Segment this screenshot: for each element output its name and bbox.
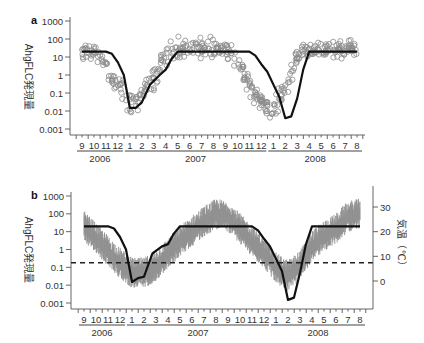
month-label: 1 — [129, 314, 134, 325]
month-label: 6 — [187, 140, 192, 151]
month-label: 8 — [211, 140, 216, 151]
month-label: 10 — [89, 140, 100, 151]
figure: a AhgFLC発現量 10001001010.10.010.001 91011… — [0, 0, 424, 343]
y-tick-label: 1000 — [43, 191, 64, 202]
month-label: 3 — [151, 140, 156, 151]
panel-a-plot-area — [80, 34, 360, 120]
month-label: 3 — [295, 140, 300, 151]
y-tick-label: 1000 — [42, 16, 63, 27]
y-tick-label: 1 — [59, 244, 64, 255]
month-label: 2 — [283, 140, 288, 151]
month-label: 5 — [177, 314, 182, 325]
month-label: 1 — [273, 314, 278, 325]
observed-scatter — [80, 34, 360, 120]
data-point — [198, 35, 203, 40]
month-label: 2 — [141, 314, 146, 325]
month-label: 11 — [244, 140, 254, 151]
data-point — [176, 34, 181, 39]
data-point — [198, 56, 203, 61]
month-label: 11 — [101, 140, 111, 151]
temperature-band — [84, 199, 360, 291]
y-tick-label: 0.1 — [50, 88, 63, 99]
month-label: 7 — [345, 314, 350, 325]
month-label: 3 — [153, 314, 158, 325]
month-label: 5 — [175, 140, 180, 151]
month-label: 10 — [235, 314, 246, 325]
right-tick-label: 30 — [380, 202, 391, 213]
month-label: 9 — [79, 140, 84, 151]
y-tick-label: 0.001 — [39, 124, 63, 135]
temperature-trace — [84, 199, 360, 291]
month-label: 1 — [127, 140, 132, 151]
month-label: 4 — [309, 314, 314, 325]
y-tick-label: 100 — [47, 34, 63, 45]
month-label: 1 — [271, 140, 276, 151]
year-label: 2007 — [185, 153, 206, 164]
year-label: 2008 — [305, 153, 326, 164]
month-label: 8 — [354, 140, 359, 151]
month-label: 7 — [201, 314, 206, 325]
data-point — [205, 39, 210, 44]
y-tick-label: 1 — [58, 70, 63, 81]
panel-b-y-axis: 10001001010.10.010.001 — [40, 191, 71, 310]
data-point — [88, 56, 93, 61]
month-label: 7 — [342, 140, 347, 151]
month-label: 8 — [357, 314, 362, 325]
month-label: 4 — [163, 140, 168, 151]
month-label: 10 — [232, 140, 243, 151]
month-label: 4 — [307, 140, 312, 151]
panel-a: a AhgFLC発現量 10001001010.10.010.001 91011… — [23, 14, 365, 164]
month-label: 9 — [223, 140, 228, 151]
panel-b-ylabel: AhgFLC発現量 — [23, 217, 35, 284]
month-label: 5 — [321, 314, 326, 325]
data-point — [232, 56, 237, 61]
panel-a-label: a — [31, 14, 38, 26]
year-label: 2006 — [91, 327, 112, 338]
y-tick-label: 10 — [52, 52, 63, 63]
panel-a-ylabel: AhgFLC発現量 — [23, 44, 35, 111]
month-label: 9 — [225, 314, 230, 325]
month-label: 2 — [139, 140, 144, 151]
data-point — [164, 47, 169, 52]
y-tick-label: 100 — [48, 208, 64, 219]
year-label: 2008 — [307, 327, 328, 338]
month-label: 11 — [103, 314, 113, 325]
month-label: 12 — [256, 140, 267, 151]
panel-a-x-axis: 9101112123456789101112123456782006200720… — [70, 135, 365, 164]
month-label: 6 — [333, 314, 338, 325]
y-tick-label: 0.1 — [51, 262, 64, 273]
panel-b-plot-area — [71, 199, 373, 300]
month-label: 3 — [297, 314, 302, 325]
month-label: 10 — [91, 314, 102, 325]
month-label: 8 — [213, 314, 218, 325]
month-label: 12 — [259, 314, 270, 325]
month-label: 12 — [115, 314, 126, 325]
panel-b-right-ylabel: 気温（℃） — [396, 219, 408, 270]
y-tick-label: 0.01 — [45, 106, 64, 117]
y-tick-label: 0.01 — [46, 280, 65, 291]
right-tick-label: 0 — [380, 276, 385, 287]
month-label: 5 — [318, 140, 323, 151]
month-label: 9 — [81, 314, 86, 325]
data-point — [168, 39, 173, 44]
month-label: 2 — [285, 314, 290, 325]
data-point — [289, 62, 294, 67]
month-label: 6 — [330, 140, 335, 151]
year-label: 2007 — [187, 327, 208, 338]
panel-b-x-axis: 9101112123456789101112123456782006200720… — [71, 309, 373, 338]
y-tick-label: 0.001 — [40, 298, 64, 309]
panel-b-label: b — [31, 189, 38, 201]
month-label: 6 — [189, 314, 194, 325]
month-label: 7 — [199, 140, 204, 151]
data-point — [248, 95, 253, 100]
panel-a-y-axis: 10001001010.10.010.001 — [39, 16, 70, 136]
year-label: 2006 — [89, 153, 110, 164]
month-label: 11 — [247, 314, 257, 325]
panel-b-right-axis: 3020100 — [373, 186, 391, 309]
data-point — [244, 87, 249, 92]
right-tick-label: 20 — [380, 226, 391, 237]
right-tick-label: 10 — [380, 251, 391, 262]
month-label: 4 — [165, 314, 170, 325]
month-label: 12 — [113, 140, 124, 151]
y-tick-label: 10 — [53, 226, 64, 237]
